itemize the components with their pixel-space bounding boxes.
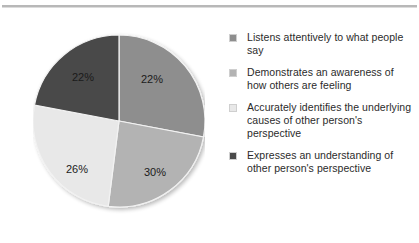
legend-label-accurately: Accurately identifies the underlying cau… [247, 101, 415, 140]
legend-item-listens: Listens attentively to what people say [229, 31, 415, 57]
top-divider-rule-shadow [2, 7, 417, 8]
slice-label-expresses: 22% [72, 71, 94, 83]
legend-swatch-icon-expresses [229, 152, 237, 160]
legend-item-expresses: Expresses an understanding of other pers… [229, 149, 415, 175]
legend-label-expresses: Expresses an understanding of other pers… [247, 149, 415, 175]
pie-chart-graphic: 22% 30% 26% 22% [33, 18, 205, 224]
legend-label-demonstrates: Demonstrates an awareness of how others … [247, 66, 415, 92]
legend-label-listens: Listens attentively to what people say [247, 31, 415, 57]
pie-svg: 22% 30% 26% 22% [33, 18, 205, 224]
pie-slice-accurately [33, 105, 119, 206]
pie-chart-figure: 22% 30% 26% 22% Listens attentively to w… [0, 0, 419, 243]
slice-label-listens: 22% [141, 73, 163, 85]
legend-swatch-icon-demonstrates [229, 69, 237, 77]
pie-slice-listens [119, 35, 205, 137]
pie-slice-demonstrates [108, 121, 203, 207]
slice-label-accurately: 26% [66, 163, 88, 175]
chart-legend: Listens attentively to what people say D… [229, 31, 415, 184]
legend-item-demonstrates: Demonstrates an awareness of how others … [229, 66, 415, 92]
slice-label-demonstrates: 30% [144, 166, 166, 178]
legend-item-accurately: Accurately identifies the underlying cau… [229, 101, 415, 140]
legend-swatch-icon-listens [229, 34, 237, 42]
legend-swatch-icon-accurately [229, 104, 237, 112]
